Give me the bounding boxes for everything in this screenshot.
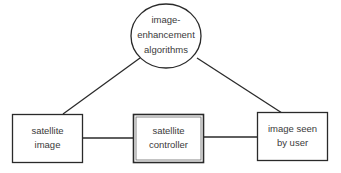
node-label-line-2: by user bbox=[277, 137, 308, 148]
edge-algorithms-image-seen bbox=[197, 58, 282, 113]
node-label-line-2: controller bbox=[149, 139, 188, 150]
edge-algorithms-satellite-image bbox=[63, 58, 140, 114]
diagram-canvas: image- enhancement algorithms satellite … bbox=[0, 0, 341, 173]
node-label-line-1: image seen bbox=[268, 123, 317, 134]
node-label-line-1: image- bbox=[151, 14, 180, 25]
node-image-enhancement-algorithms: image- enhancement algorithms bbox=[131, 4, 201, 68]
node-satellite-controller: satellite controller bbox=[134, 115, 204, 163]
node-label-line-2: enhancement bbox=[137, 29, 195, 40]
node-image-seen-by-user: image seen by user bbox=[258, 113, 328, 161]
node-label-line-1: satellite bbox=[31, 125, 63, 136]
node-label-line-2: image bbox=[35, 139, 61, 150]
node-label-line-3: algorithms bbox=[144, 44, 188, 55]
node-label-line-1: satellite bbox=[152, 125, 184, 136]
node-satellite-image: satellite image bbox=[13, 115, 83, 163]
